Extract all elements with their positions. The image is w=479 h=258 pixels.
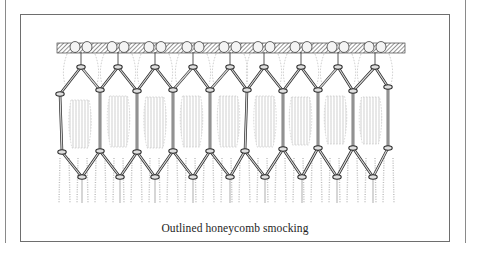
figure-caption: Outlined honeycomb smocking (0, 222, 470, 234)
gathered-band (57, 42, 405, 68)
smocking-illustration (0, 0, 479, 258)
